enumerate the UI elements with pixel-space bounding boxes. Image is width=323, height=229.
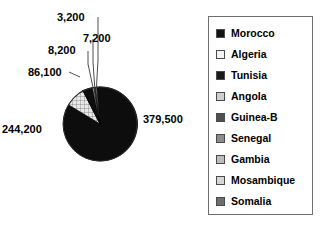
legend-label-senegal: Senegal [231, 133, 271, 144]
legend-swatch-morocco [216, 29, 225, 38]
legend-label-angola: Angola [231, 91, 267, 102]
chart-legend: Morocco Algeria Tunisia Angola Guinea-B [208, 16, 313, 215]
pie-value-label-7200: 7,200 [83, 32, 111, 44]
legend-item-guinea-b[interactable]: Guinea-B [209, 107, 312, 128]
legend-item-senegal[interactable]: Senegal [209, 128, 312, 149]
legend-swatch-gambia [216, 155, 225, 164]
legend-swatch-algeria [216, 50, 225, 59]
pie-chart-figure: 3,200 7,200 8,200 86,100 244,200 379,500… [0, 0, 323, 229]
leader-line-86100 [69, 72, 80, 77]
legend-item-somalia[interactable]: Somalia [209, 191, 312, 212]
leader-line-7200 [93, 39, 95, 88]
legend-swatch-mosambique [216, 176, 225, 185]
legend-item-morocco[interactable]: Morocco [209, 23, 312, 44]
legend-label-somalia: Somalia [231, 196, 271, 207]
legend-item-angola[interactable]: Angola [209, 86, 312, 107]
legend-label-mosambique: Mosambique [231, 175, 295, 186]
pie-value-label-3200: 3,200 [57, 11, 85, 23]
legend-item-gambia[interactable]: Gambia [209, 149, 312, 170]
legend-label-algeria: Algeria [231, 49, 267, 60]
legend-item-algeria[interactable]: Algeria [209, 44, 312, 65]
legend-swatch-senegal [216, 134, 225, 143]
legend-swatch-somalia [216, 197, 225, 206]
legend-label-gambia: Gambia [231, 154, 270, 165]
pie-value-label-86100: 86,100 [28, 66, 62, 78]
legend-label-morocco: Morocco [231, 28, 275, 39]
legend-swatch-tunisia [216, 71, 225, 80]
leader-line-3200 [96, 17, 98, 89]
legend-label-guinea-b: Guinea-B [231, 112, 278, 123]
legend-swatch-guinea-b [216, 113, 225, 122]
leader-line-8200 [88, 51, 93, 88]
pie-value-label-379500: 379,500 [143, 113, 183, 125]
pie-chart-plot-area: 3,200 7,200 8,200 86,100 244,200 379,500 [0, 0, 205, 229]
pie-value-label-8200: 8,200 [48, 44, 76, 56]
legend-list: Morocco Algeria Tunisia Angola Guinea-B [209, 17, 312, 212]
legend-item-mosambique[interactable]: Mosambique [209, 170, 312, 191]
legend-item-tunisia[interactable]: Tunisia [209, 65, 312, 86]
legend-label-tunisia: Tunisia [231, 70, 267, 81]
pie-value-label-244200: 244,200 [2, 123, 42, 135]
legend-swatch-angola [216, 92, 225, 101]
